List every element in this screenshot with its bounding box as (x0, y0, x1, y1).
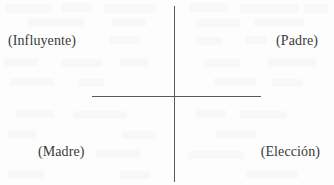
quadrant-diagram: (Influyente) (Padre) (Madre) (Elección) (0, 0, 334, 185)
horizontal-axis-line (92, 96, 261, 97)
quadrant-label-bottom-right: (Elección) (261, 145, 320, 159)
quadrant-label-top-right: (Padre) (276, 34, 318, 48)
quadrant-label-top-left: (Influyente) (8, 34, 76, 48)
vertical-axis-line (174, 6, 175, 182)
quadrant-label-bottom-left: (Madre) (38, 145, 85, 159)
